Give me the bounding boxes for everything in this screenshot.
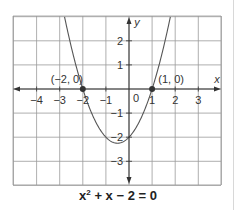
x-tick-label: −1 bbox=[100, 94, 113, 106]
axis-labels: −4−3−2−112321−1−2−30xy(−2, 0)(1, 0) bbox=[30, 16, 220, 167]
y-tick-label: −1 bbox=[110, 107, 123, 119]
y-axis-label: y bbox=[133, 16, 141, 28]
y-tick-label: −3 bbox=[110, 155, 123, 167]
y-tick-label: 2 bbox=[117, 35, 123, 47]
x-axis-right-arrow-icon bbox=[214, 87, 221, 92]
intercept-point-label: (−2, 0) bbox=[51, 73, 83, 85]
x-axis-label: x bbox=[213, 73, 220, 85]
equation-caption: x2 + x − 2 = 0 bbox=[0, 188, 236, 203]
x-tick-label: 2 bbox=[172, 94, 178, 106]
caption-rest: + x − 2 = 0 bbox=[91, 188, 157, 203]
y-axis-up-arrow-icon bbox=[127, 17, 132, 24]
x-tick-label: 1 bbox=[149, 94, 155, 106]
x-tick-label: −2 bbox=[77, 94, 90, 106]
intercept-point-marker bbox=[80, 86, 86, 92]
y-tick-label: 1 bbox=[117, 59, 123, 71]
x-tick-label: −3 bbox=[53, 94, 66, 106]
x-tick-label: −4 bbox=[30, 94, 43, 106]
page-edge-divider bbox=[233, 0, 234, 210]
parabola-graph: −4−3−2−112321−1−2−30xy(−2, 0)(1, 0) bbox=[0, 0, 236, 210]
origin-label: 0 bbox=[133, 92, 139, 104]
x-axis-left-arrow-icon bbox=[13, 87, 20, 92]
x-tick-label: 3 bbox=[195, 94, 201, 106]
intercept-point-marker bbox=[149, 86, 155, 92]
intercept-point-label: (1, 0) bbox=[158, 73, 184, 85]
y-tick-label: −2 bbox=[110, 131, 123, 143]
y-axis-down-arrow-icon bbox=[127, 177, 132, 184]
